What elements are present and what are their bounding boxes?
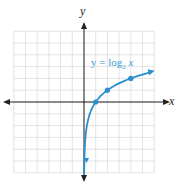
y-axis-up-arrow-icon bbox=[81, 22, 87, 29]
log-curve bbox=[84, 72, 151, 174]
equation-text: y = log bbox=[91, 56, 122, 68]
equation-label: y = log2 x bbox=[91, 56, 133, 71]
x-axis-left-arrow-icon bbox=[3, 99, 10, 105]
equation-variable: x bbox=[129, 56, 134, 68]
curve-end-arrow-icon bbox=[148, 69, 155, 75]
y-axis-down-arrow-icon bbox=[81, 175, 87, 182]
y-axis-label: y bbox=[80, 4, 85, 19]
equation-subscript: 2 bbox=[122, 63, 126, 71]
x-axis-label: x bbox=[169, 94, 174, 109]
log-graph bbox=[0, 0, 176, 187]
